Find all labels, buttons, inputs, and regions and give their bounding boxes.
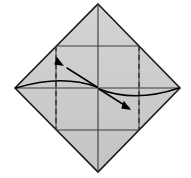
origami-svg (0, 0, 191, 178)
origami-diagram (0, 0, 191, 178)
